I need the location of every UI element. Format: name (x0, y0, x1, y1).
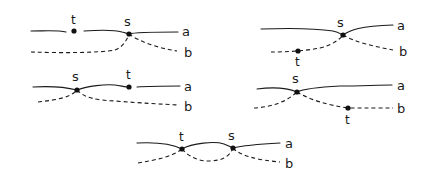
label-b: b (184, 99, 192, 114)
label-a: a (397, 18, 405, 33)
label-t: t (126, 68, 131, 82)
curve-a (257, 85, 392, 92)
label-t: t (179, 130, 184, 144)
curve-a (137, 143, 280, 149)
panel-top-left: t s a b (31, 13, 192, 60)
curve-b (38, 90, 77, 102)
panel-bottom-center: t s a b (137, 128, 293, 171)
point-t (126, 84, 131, 89)
panel-middle-right: s t a b (254, 71, 405, 127)
panel-top-right: t s a b (261, 15, 407, 69)
curve-a (33, 85, 129, 90)
point-t (295, 48, 300, 53)
curve-a (31, 31, 66, 32)
point-s (340, 32, 345, 37)
curve-a (137, 86, 180, 87)
point-t (179, 146, 184, 151)
label-t: t (295, 55, 300, 69)
curve-b (77, 90, 178, 105)
curve-b (31, 34, 129, 53)
curve-b (254, 92, 297, 108)
label-b: b (399, 44, 407, 59)
point-t (71, 28, 76, 33)
curve-b (129, 34, 177, 51)
label-a: a (184, 79, 192, 94)
label-s: s (124, 14, 131, 29)
label-b: b (184, 45, 192, 60)
curve-b (182, 148, 233, 161)
point-t (345, 105, 350, 110)
point-s (126, 31, 131, 36)
label-a: a (397, 78, 405, 93)
curve-b (233, 148, 280, 162)
label-s: s (228, 128, 235, 143)
label-a: a (285, 136, 293, 151)
curve-b (343, 35, 393, 50)
curve-b (297, 92, 393, 108)
label-t: t (71, 13, 76, 27)
label-b: b (285, 156, 293, 171)
label-t: t (345, 113, 350, 127)
label-s: s (337, 15, 344, 30)
curve-b (138, 149, 182, 163)
point-s (294, 89, 299, 94)
label-s: s (292, 71, 299, 86)
point-s (230, 145, 235, 150)
curve-b (271, 35, 343, 52)
curve-a (261, 25, 393, 35)
point-s (74, 87, 79, 92)
label-s: s (72, 69, 79, 84)
panel-middle-left: s t a b (33, 68, 192, 114)
diagram-canvas: t s a b t s a b s t a b s t a (0, 0, 432, 181)
label-b: b (397, 101, 405, 116)
label-a: a (182, 24, 190, 39)
